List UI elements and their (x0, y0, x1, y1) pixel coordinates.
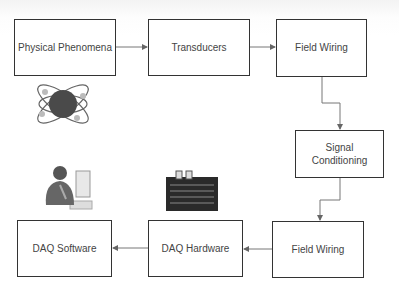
node-field-wiring-top: Field Wiring (276, 19, 367, 77)
node-field-wiring-bottom: Field Wiring (272, 221, 364, 278)
node-label: Physical Phenomena (18, 41, 112, 55)
node-label: Field Wiring (292, 243, 345, 257)
node-physical-phenomena: Physical Phenomena (14, 19, 116, 76)
node-daq-hardware: DAQ Hardware (148, 220, 243, 277)
node-label: DAQ Hardware (162, 242, 230, 256)
atom-icon (30, 78, 96, 130)
node-label-line1: Signal (326, 141, 354, 155)
node-label: Field Wiring (295, 41, 348, 55)
node-label-line2: Conditioning (312, 154, 368, 168)
circuit-board-icon (164, 169, 222, 214)
node-transducers: Transducers (148, 19, 250, 76)
node-label: Transducers (171, 41, 226, 55)
person-at-computer-icon (40, 163, 96, 218)
node-signal-conditioning: Signal Conditioning (295, 130, 384, 178)
node-daq-software: DAQ Software (17, 220, 112, 277)
node-label: DAQ Software (33, 242, 97, 256)
